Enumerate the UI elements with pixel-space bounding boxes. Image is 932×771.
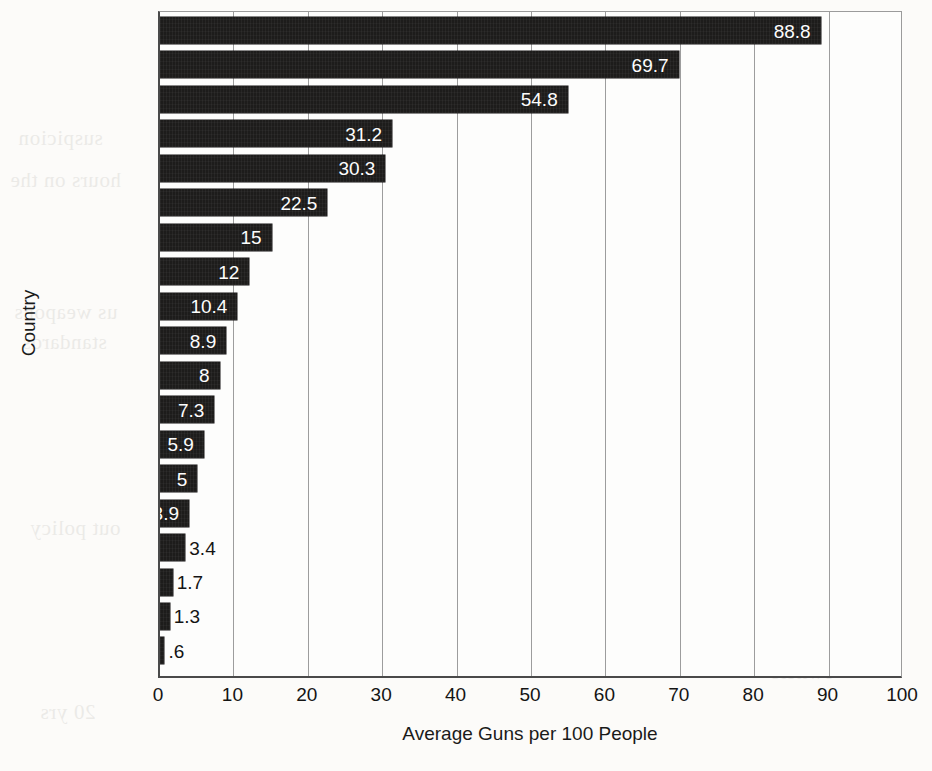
value-label-israel: 7.3 <box>178 400 204 419</box>
bar-chart-figure: Country United States88.8Serbia69.7Yemen… <box>0 0 932 771</box>
x-tick-100: 100 <box>886 684 918 706</box>
bar-vietnam[interactable] <box>160 569 173 596</box>
x-tick-70: 70 <box>668 684 689 706</box>
bar-brazil[interactable] <box>160 362 220 389</box>
bar-row: Israel7.3 <box>160 396 901 423</box>
y-axis-title: Country <box>18 268 40 378</box>
value-label-russia: 8.9 <box>190 331 216 350</box>
value-label-spain: 10.4 <box>190 297 227 316</box>
bar-japan[interactable] <box>160 637 164 664</box>
plot-area: United States88.8Serbia69.7Yemen54.8Fran… <box>158 11 902 678</box>
value-label-syria: 3.9 <box>158 504 179 523</box>
bar-row: Colombia5.9 <box>160 431 901 458</box>
value-label-france: 31.2 <box>345 124 382 143</box>
bar-row: Yemen54.8 <box>160 86 901 113</box>
x-tick-10: 10 <box>222 684 243 706</box>
value-label-morocco: 5 <box>177 469 188 488</box>
value-label-poland: 1.3 <box>174 607 200 626</box>
value-label-mexico: 15 <box>240 228 261 247</box>
bar-row: Serbia69.7 <box>160 51 901 78</box>
bar-row: Syria3.9 <box>160 500 901 527</box>
x-axis-title: Average Guns per 100 People <box>158 723 902 745</box>
value-label-united-states: 88.8 <box>774 21 811 40</box>
bar-palestine[interactable] <box>160 534 185 561</box>
value-label-palestine: 3.4 <box>189 538 215 557</box>
bar-row: Poland1.3 <box>160 603 901 630</box>
x-tick-50: 50 <box>519 684 540 706</box>
bar-row: Greece22.5 <box>160 189 901 216</box>
bar-row: United States88.8 <box>160 17 901 44</box>
bar-united-states[interactable] <box>160 17 821 44</box>
value-label-denmark: 12 <box>218 262 239 281</box>
value-label-japan: .6 <box>168 641 184 660</box>
bar-row: Germany30.3 <box>160 155 901 182</box>
value-label-yemen: 54.8 <box>521 90 558 109</box>
bar-row: Japan.6 <box>160 637 901 664</box>
value-label-brazil: 8 <box>199 366 210 385</box>
value-label-colombia: 5.9 <box>167 435 193 454</box>
x-tick-40: 40 <box>445 684 466 706</box>
value-label-germany: 30.3 <box>338 159 375 178</box>
bar-row: Denmark12 <box>160 258 901 285</box>
x-tick-80: 80 <box>743 684 764 706</box>
bar-row: Brazil8 <box>160 362 901 389</box>
value-label-greece: 22.5 <box>280 193 317 212</box>
value-label-serbia: 69.7 <box>632 55 669 74</box>
bar-row: Morocco5 <box>160 465 901 492</box>
bar-yemen[interactable] <box>160 86 568 113</box>
bar-row: Vietnam1.7 <box>160 569 901 596</box>
bar-row: Russia8.9 <box>160 327 901 354</box>
value-label-vietnam: 1.7 <box>177 573 203 592</box>
bar-serbia[interactable] <box>160 51 679 78</box>
x-tick-60: 60 <box>594 684 615 706</box>
x-tick-20: 20 <box>296 684 317 706</box>
bar-poland[interactable] <box>160 603 170 630</box>
bar-row: France31.2 <box>160 120 901 147</box>
x-tick-30: 30 <box>371 684 392 706</box>
bar-row: Palestine3.4 <box>160 534 901 561</box>
bar-row: Spain10.4 <box>160 293 901 320</box>
bar-row: Mexico15 <box>160 224 901 251</box>
x-tick-90: 90 <box>817 684 838 706</box>
x-tick-0: 0 <box>153 684 164 706</box>
